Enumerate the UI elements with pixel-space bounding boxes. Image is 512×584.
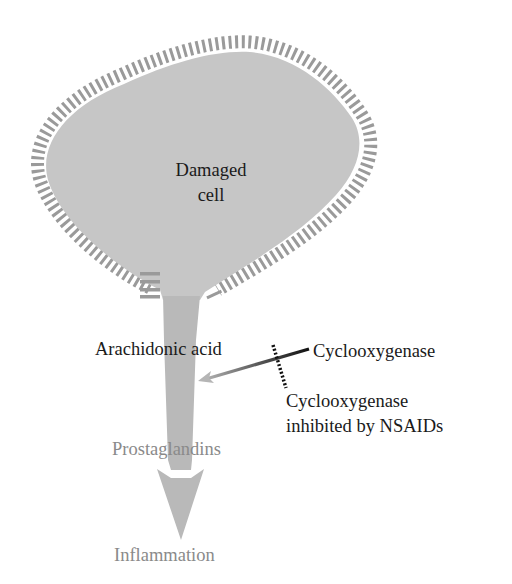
cell-label-line2: cell: [160, 183, 262, 208]
label-inhibited-line2: inhibited by NSAIDs: [286, 417, 443, 436]
diagram-canvas: [0, 0, 512, 584]
label-cyclooxygenase: Cyclooxygenase: [313, 342, 435, 361]
cell-label-line1: Damaged: [160, 158, 262, 183]
pathway-arrowhead: [157, 469, 204, 540]
label-inhibited-line1: Cyclooxygenase: [286, 392, 408, 411]
membrane-lip-right: [206, 290, 222, 299]
label-prostaglandins: Prostaglandins: [112, 440, 221, 459]
label-inflammation: Inflammation: [114, 546, 215, 565]
inhibition-marker: [273, 345, 286, 388]
label-arachidonic-acid: Arachidonic acid: [95, 340, 222, 359]
cell-label: Damaged cell: [160, 158, 262, 208]
